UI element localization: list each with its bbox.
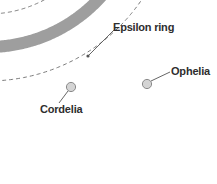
epsilon-ring-band <box>0 0 108 47</box>
epsilon-ring-anchor-dot <box>86 54 89 57</box>
cordelia-leader-line <box>59 91 68 103</box>
ophelia-leader-line <box>151 72 170 81</box>
diagram-canvas: Epsilon ring Ophelia Cordelia <box>0 0 217 184</box>
epsilon-ring-label: Epsilon ring <box>113 21 174 33</box>
moon-ophelia <box>142 79 151 88</box>
cordelia-label: Cordelia <box>40 103 82 115</box>
ophelia-orbit-arc <box>0 0 62 14</box>
ophelia-label: Ophelia <box>171 65 210 77</box>
epsilon-ring-diagram <box>0 0 217 184</box>
moon-cordelia <box>66 82 75 91</box>
epsilon-ring-leader-line <box>89 29 115 55</box>
